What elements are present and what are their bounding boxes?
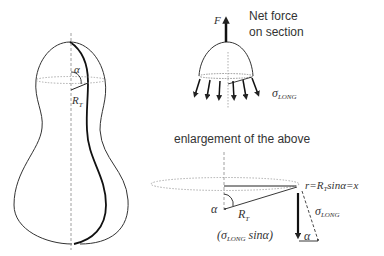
radius-equation: r=RTsinα=x	[305, 179, 358, 193]
net-force-text-line1: Net force	[249, 9, 298, 23]
enlargement-rt-label: RT	[237, 207, 250, 223]
enlargement-alpha-label: α	[211, 202, 218, 216]
bottom-alpha-label: α	[304, 229, 311, 243]
gourd-rt-label: RT	[71, 94, 84, 109]
stress-arrows	[195, 78, 258, 98]
gourd-radius-line	[71, 83, 88, 90]
net-force-panel: F Net force on section σLONG	[195, 9, 304, 108]
enlargement-title: enlargement of the above	[174, 132, 310, 146]
gourd-alpha-label: α	[74, 63, 80, 75]
enlargement-panel: enlargement of the above α RT r=RTsinα=x…	[151, 132, 358, 243]
dome-base-ellipse	[199, 74, 253, 79]
gourd-shape: α RT	[14, 33, 128, 250]
dome-outline	[199, 42, 253, 76]
enlargement-ellipse	[151, 178, 299, 191]
diagram-canvas: α RT F Net force on section σLONG	[0, 0, 384, 256]
sigma-long-label-top: σLONG	[272, 86, 297, 101]
force-label: F	[213, 14, 221, 26]
net-force-text-line2: on section	[249, 25, 304, 39]
sigma-long-label-bottom: σLONG	[315, 204, 340, 219]
gourd-left-outline	[14, 42, 72, 244]
vertical-component-label: (σLONG sinα)	[217, 228, 273, 243]
enlargement-angle-arc	[224, 194, 233, 206]
